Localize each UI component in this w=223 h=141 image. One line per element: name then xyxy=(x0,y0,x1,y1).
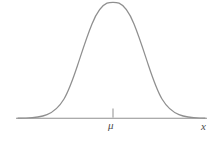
x-axis-label: x xyxy=(201,121,206,132)
bell-curve-path xyxy=(18,2,205,118)
mean-axis-label: μ xyxy=(108,120,114,131)
normal-distribution-figure: μ x xyxy=(0,0,223,141)
